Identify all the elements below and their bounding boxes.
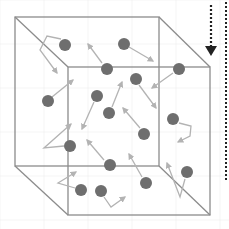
velocity-arrow [129, 47, 153, 61]
pressure-indicator [205, 2, 226, 182]
particle [138, 128, 150, 140]
particle [91, 90, 103, 102]
particle [42, 95, 54, 107]
box-edge [15, 166, 68, 215]
velocity-arrow [139, 85, 156, 108]
box-edge [159, 17, 210, 67]
velocity-arrow [112, 82, 122, 107]
velocity-arrow [87, 140, 104, 160]
particle [95, 185, 107, 197]
particle [101, 63, 113, 75]
particle [173, 63, 185, 75]
velocity-arrow [178, 123, 191, 142]
velocity-arrow [52, 80, 73, 97]
diagram-canvas [0, 0, 229, 229]
velocity-arrow [88, 44, 102, 63]
box-back-face [15, 17, 159, 166]
particle [75, 184, 87, 196]
particle [64, 140, 76, 152]
gas-box-diagram [0, 0, 229, 229]
particle [167, 113, 179, 125]
velocity-arrow [40, 36, 61, 73]
down-arrow-icon [205, 46, 217, 56]
velocity-arrow [152, 73, 173, 88]
particle [104, 159, 116, 171]
velocity-arrow [58, 172, 76, 188]
particle [140, 177, 152, 189]
particle [118, 38, 130, 50]
particle [130, 73, 142, 85]
particle [103, 107, 115, 119]
particle [181, 166, 193, 178]
velocity-arrow [104, 197, 125, 207]
velocity-arrow [123, 108, 140, 128]
particle [59, 39, 71, 51]
box-front-face [68, 67, 210, 215]
